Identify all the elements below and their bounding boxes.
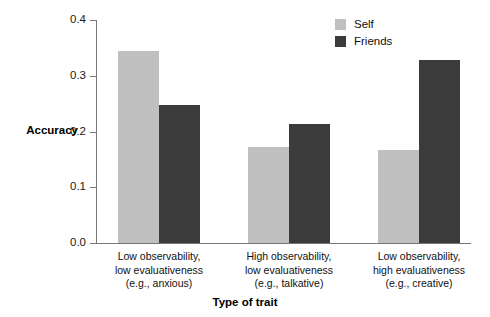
category-label-line: (e.g., creative) bbox=[334, 277, 490, 291]
y-axis-tick-label-wrap: 0.0 bbox=[38, 237, 86, 249]
y-axis-tick bbox=[90, 187, 96, 188]
x-axis-title: Type of trait bbox=[0, 297, 490, 309]
x-axis-line bbox=[96, 243, 471, 244]
bar-chart: 0.40.30.20.10.0 Accuracy Low observabili… bbox=[0, 0, 490, 317]
y-axis-title: Accuracy bbox=[6, 125, 78, 137]
x-axis-category-label: Low observability,high evaluativeness(e.… bbox=[334, 250, 490, 291]
plot-area: 0.40.30.20.10.0 Accuracy Low observabili… bbox=[0, 0, 490, 317]
y-axis-tick-label-wrap: 0.1 bbox=[38, 181, 86, 193]
y-axis-tick bbox=[90, 20, 96, 21]
legend-label-self: Self bbox=[354, 19, 374, 31]
bar-friends-1 bbox=[159, 105, 200, 243]
category-label-line: Low observability, bbox=[334, 250, 490, 264]
bar-friends-3 bbox=[419, 60, 460, 243]
y-axis-tick-label-wrap: 0.3 bbox=[38, 70, 86, 82]
y-axis-tick bbox=[90, 243, 96, 244]
legend: Self Friends bbox=[335, 17, 455, 51]
bar-self-1 bbox=[118, 51, 159, 243]
bar-friends-2 bbox=[289, 124, 330, 243]
legend-item-friends: Friends bbox=[335, 34, 455, 49]
bar-self-2 bbox=[248, 147, 289, 243]
category-label-line: high evaluativeness bbox=[334, 264, 490, 278]
y-axis-tick-label: 0.3 bbox=[42, 70, 86, 82]
bar-self-3 bbox=[378, 150, 419, 243]
y-axis-tick-label-wrap: 0.4 bbox=[38, 14, 86, 26]
y-axis-line bbox=[96, 20, 97, 243]
y-axis-tick-label: 0.4 bbox=[42, 14, 86, 26]
y-axis-tick bbox=[90, 76, 96, 77]
y-axis-tick-label: 0.1 bbox=[42, 181, 86, 193]
legend-label-friends: Friends bbox=[354, 36, 392, 48]
y-axis-tick-label: 0.0 bbox=[42, 237, 86, 249]
legend-item-self: Self bbox=[335, 17, 455, 32]
y-axis-tick bbox=[90, 132, 96, 133]
legend-swatch-self-icon bbox=[335, 19, 346, 30]
legend-swatch-friends-icon bbox=[335, 36, 346, 47]
